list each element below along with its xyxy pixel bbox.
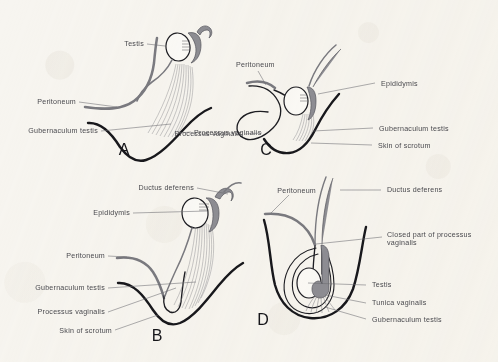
panel-d-label-tunica: Tunica vaginalis [372, 299, 427, 307]
panel-d: Peritoneum Ductus deferens Closed part o… [257, 177, 471, 328]
panel-d-label-testis: Testis [372, 281, 392, 289]
panel-d-ductus-deferens [322, 178, 333, 244]
figure-canvas: Testis Peritoneum Gubernaculum testis Pr… [0, 0, 498, 362]
panel-b: Ductus deferens Epididymis Peritoneum Gu… [35, 183, 243, 344]
panel-d-peritoneum-line [265, 214, 315, 245]
panel-b-gubernaculum-fibers [174, 222, 214, 309]
panel-c: Peritoneum Epididymis Gubernaculum testi… [175, 45, 449, 158]
panel-d-label-ductus: Ductus deferens [387, 186, 443, 194]
panel-c-letter: C [260, 141, 272, 158]
panel-a-letter: A [119, 141, 130, 158]
panel-b-label-gubernaculum: Gubernaculum testis [35, 284, 105, 292]
panel-b-label-processus: Processus vaginalis [38, 308, 106, 316]
panel-a-ductus-deferens [197, 26, 212, 38]
panel-d-letter: D [257, 311, 269, 328]
panel-b-scrotum-skin [118, 263, 243, 324]
panel-b-ductus-deferens [215, 188, 233, 201]
panel-a-label-peritoneum: Peritoneum [37, 98, 76, 106]
panel-b-label-epididymis: Epididymis [93, 209, 130, 217]
panel-d-label-closed-1: Closed part of processus [387, 231, 472, 239]
panel-c-vessels [309, 45, 336, 86]
panel-d-leader-peritoneum [271, 195, 289, 213]
panel-c-label-gubernaculum: Gubernaculum testis [379, 125, 449, 133]
panel-c-leader-epididymis [318, 83, 375, 94]
panel-a-label-gubernaculum: Gubernaculum testis [28, 127, 98, 135]
panel-b-gubernaculum-stem [165, 228, 192, 296]
panel-b-label-skin: Skin of scrotum [59, 327, 112, 335]
anatomical-figure: Testis Peritoneum Gubernaculum testis Pr… [0, 0, 498, 362]
panel-c-label-skin: Skin of scrotum [378, 142, 431, 150]
panel-a-label-testis: Testis [124, 40, 144, 48]
panel-b-testis [181, 197, 210, 230]
panel-d-label-closed-2: vaginalis [387, 239, 417, 247]
panel-b-label-ductus: Ductus deferens [139, 184, 195, 192]
panel-c-label-peritoneum: Peritoneum [236, 61, 275, 69]
panel-b-letter: B [152, 327, 163, 344]
panel-a: Testis Peritoneum Gubernaculum testis Pr… [28, 26, 261, 161]
panel-c-label-epididymis: Epididymis [381, 80, 418, 88]
panel-d-label-gubernaculum: Gubernaculum testis [372, 316, 442, 324]
panel-d-leader-closed [316, 237, 382, 244]
panel-c-leader-gubernaculum [313, 128, 373, 131]
panel-d-label-peritoneum: Peritoneum [277, 187, 316, 195]
panel-c-leader-skin [311, 143, 372, 145]
panel-c-label-processus: Processus vaginalis [175, 130, 243, 138]
panel-d-leader-gubernaculum [325, 307, 366, 319]
panel-a-peritoneum-line [85, 38, 157, 109]
panel-b-label-peritoneum: Peritoneum [66, 252, 105, 260]
